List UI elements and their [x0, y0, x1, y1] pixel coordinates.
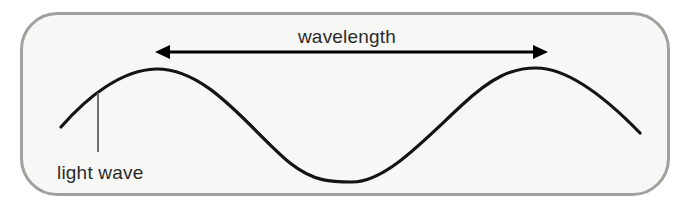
diagram-canvas: wavelength light wave [0, 0, 686, 206]
light-wave-diagram: wavelength light wave [0, 0, 686, 206]
light-wave-label: light wave [57, 162, 144, 183]
wavelength-label: wavelength [297, 26, 396, 47]
